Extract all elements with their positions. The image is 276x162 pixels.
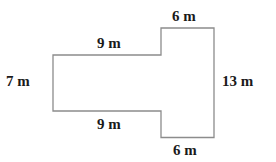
label-left-height: 7 m: [6, 74, 30, 89]
diagram-canvas: 6 m 9 m 7 m 13 m 9 m 6 m: [0, 0, 276, 162]
composite-shape: [53, 28, 214, 138]
label-bottom-right-width: 6 m: [173, 143, 197, 158]
label-right-height: 13 m: [222, 74, 253, 89]
label-bottom-left-length: 9 m: [97, 117, 121, 132]
label-top-left-length: 9 m: [97, 36, 121, 51]
label-top-right-width: 6 m: [172, 9, 196, 24]
